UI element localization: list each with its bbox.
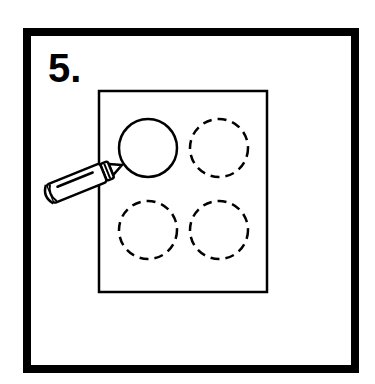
step-illustration — [0, 0, 375, 384]
paper-sheet — [99, 91, 267, 292]
